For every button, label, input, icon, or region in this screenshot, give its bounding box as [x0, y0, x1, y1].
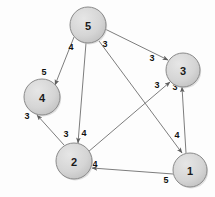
- node-label-5: 5: [85, 20, 91, 32]
- edge-1-to-2: [92, 168, 173, 174]
- node-5[interactable]: 5: [70, 7, 107, 44]
- edge-2-to-3: [88, 82, 170, 152]
- node-label-2: 2: [71, 156, 77, 168]
- edge-weight-label: 3: [63, 129, 68, 139]
- edge-weight-label: 4: [81, 128, 86, 138]
- node-2[interactable]: 2: [56, 143, 93, 180]
- edge-weight-label: 5: [41, 67, 46, 77]
- edge-weight-label: 4: [92, 159, 97, 169]
- node-1[interactable]: 1: [173, 153, 208, 188]
- graph-svg: 453344333354 53421: [0, 0, 215, 197]
- node-label-4: 4: [39, 92, 46, 104]
- graph-diagram: 453344333354 53421: [0, 0, 215, 197]
- edge-weight-label: 3: [102, 39, 107, 49]
- node-label-3: 3: [180, 65, 186, 77]
- node-3[interactable]: 3: [166, 53, 201, 88]
- edge-weight-label: 4: [68, 42, 73, 52]
- edge-2-to-4: [37, 115, 64, 145]
- edge-weight-label: 4: [174, 130, 179, 140]
- edge-5-to-1: [99, 41, 182, 153]
- edge-weight-label: 3: [24, 111, 29, 121]
- edge-weight-label: 5: [163, 175, 168, 185]
- edge-weight-label: 3: [149, 53, 154, 63]
- edge-weight-label: 3: [154, 80, 159, 90]
- node-4[interactable]: 4: [24, 79, 61, 116]
- node-label-1: 1: [187, 165, 193, 177]
- edge-1-to-3: [182, 87, 186, 153]
- edge-5-to-3: [105, 29, 168, 60]
